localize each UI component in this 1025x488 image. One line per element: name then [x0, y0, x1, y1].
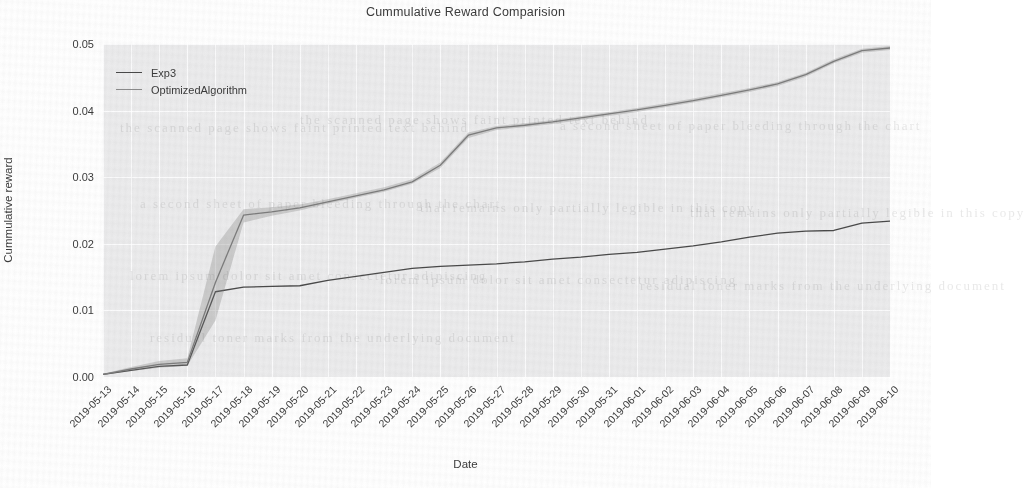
- y-axis-tick-label: 0.01: [73, 304, 94, 316]
- legend-item[interactable]: OptimizedAlgorithm: [116, 81, 247, 98]
- chart-legend: Exp3OptimizedAlgorithm: [112, 62, 253, 101]
- y-axis-tick-label: 0.05: [73, 38, 94, 50]
- x-axis-label: Date: [0, 458, 931, 470]
- legend-line-swatch: [116, 72, 142, 73]
- y-axis-tick-label: 0.04: [73, 105, 94, 117]
- chart-title: Cummulative Reward Comparision: [0, 5, 931, 19]
- y-axis-tick-label: 0.00: [73, 371, 94, 383]
- legend-item-label: OptimizedAlgorithm: [151, 84, 247, 96]
- gridline-horizontal: [103, 377, 890, 378]
- x-axis-ticks: 2019-05-132019-05-142019-05-152019-05-16…: [0, 383, 931, 463]
- y-axis-tick-label: 0.03: [73, 171, 94, 183]
- legend-item-label: Exp3: [151, 67, 176, 79]
- legend-line-swatch: [116, 89, 142, 90]
- y-axis-tick-label: 0.02: [73, 238, 94, 250]
- gridline-vertical: [890, 44, 891, 377]
- legend-item[interactable]: Exp3: [116, 64, 247, 81]
